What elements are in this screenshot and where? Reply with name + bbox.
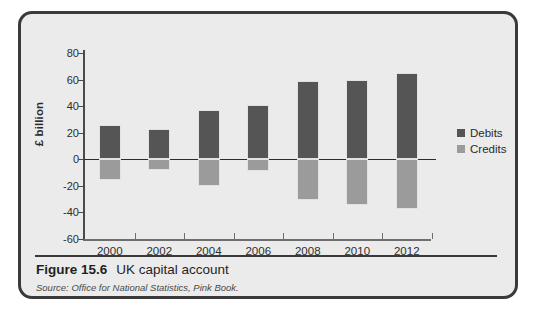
y-tick-mark — [78, 239, 84, 240]
bar-credits — [99, 159, 121, 180]
y-tick-mark — [78, 186, 84, 187]
y-tick-mark — [78, 159, 84, 160]
y-tick-label: 0 — [49, 154, 79, 165]
y-tick-label: 60 — [49, 74, 79, 85]
y-tick-label: -40 — [49, 207, 79, 218]
figure-number: Figure 15.6 — [36, 262, 107, 277]
bar-debits — [198, 110, 220, 159]
bar-credits — [148, 159, 170, 170]
legend-swatch-icon — [457, 129, 465, 137]
x-tick-mark — [333, 233, 334, 239]
y-tick-label: -20 — [49, 180, 79, 191]
y-tick-label: 20 — [49, 127, 79, 138]
source-note: Source: Office for National Statistics, … — [36, 282, 506, 293]
x-tick-mark — [382, 233, 383, 239]
x-axis-line — [83, 239, 431, 241]
y-tick-mark — [78, 80, 84, 81]
bar-credits — [346, 159, 368, 205]
bar-debits — [247, 105, 269, 159]
legend-item: Debits — [457, 126, 506, 140]
legend-item: Credits — [457, 142, 506, 156]
source-prefix: Source: Office for National Statistics, — [36, 282, 191, 293]
y-tick-mark — [78, 106, 84, 107]
bar-debits — [148, 129, 170, 159]
x-tick-mark — [432, 233, 433, 239]
y-tick-label: -60 — [49, 233, 79, 244]
bar-debits — [297, 81, 319, 159]
source-publication: Pink Book. — [193, 282, 238, 293]
chart-legend: DebitsCredits — [457, 126, 506, 158]
legend-swatch-icon — [457, 145, 465, 153]
y-tick-label: 80 — [49, 48, 79, 59]
y-tick-mark — [78, 212, 84, 213]
y-tick-mark — [78, 53, 84, 54]
y-axis-tick-labels: 806040200-20-40-60 — [49, 14, 79, 246]
y-tick-mark — [78, 133, 84, 134]
chart-plot-area: £ billion 806040200-20-40-60 20002002200… — [21, 14, 515, 246]
bar-debits — [346, 80, 368, 160]
bar-credits — [396, 159, 418, 209]
figure-card: £ billion 806040200-20-40-60 20002002200… — [18, 11, 518, 299]
caption-line: Figure 15.6UK capital account — [36, 262, 506, 277]
bar-debits — [396, 73, 418, 159]
legend-label: Debits — [470, 127, 503, 139]
caption-divider — [35, 255, 497, 257]
x-tick-mark — [135, 233, 136, 239]
legend-label: Credits — [470, 143, 506, 155]
y-axis-title: £ billion — [33, 89, 45, 159]
x-tick-mark — [283, 233, 284, 239]
bar-credits — [297, 159, 319, 200]
y-tick-label: 40 — [49, 101, 79, 112]
x-tick-mark — [184, 233, 185, 239]
figure-title: UK capital account — [116, 262, 229, 277]
bar-credits — [198, 159, 220, 186]
bar-debits — [99, 125, 121, 159]
bar-credits — [247, 159, 269, 171]
figure-caption: Figure 15.6UK capital account Source: Of… — [36, 262, 506, 293]
x-tick-mark — [234, 233, 235, 239]
